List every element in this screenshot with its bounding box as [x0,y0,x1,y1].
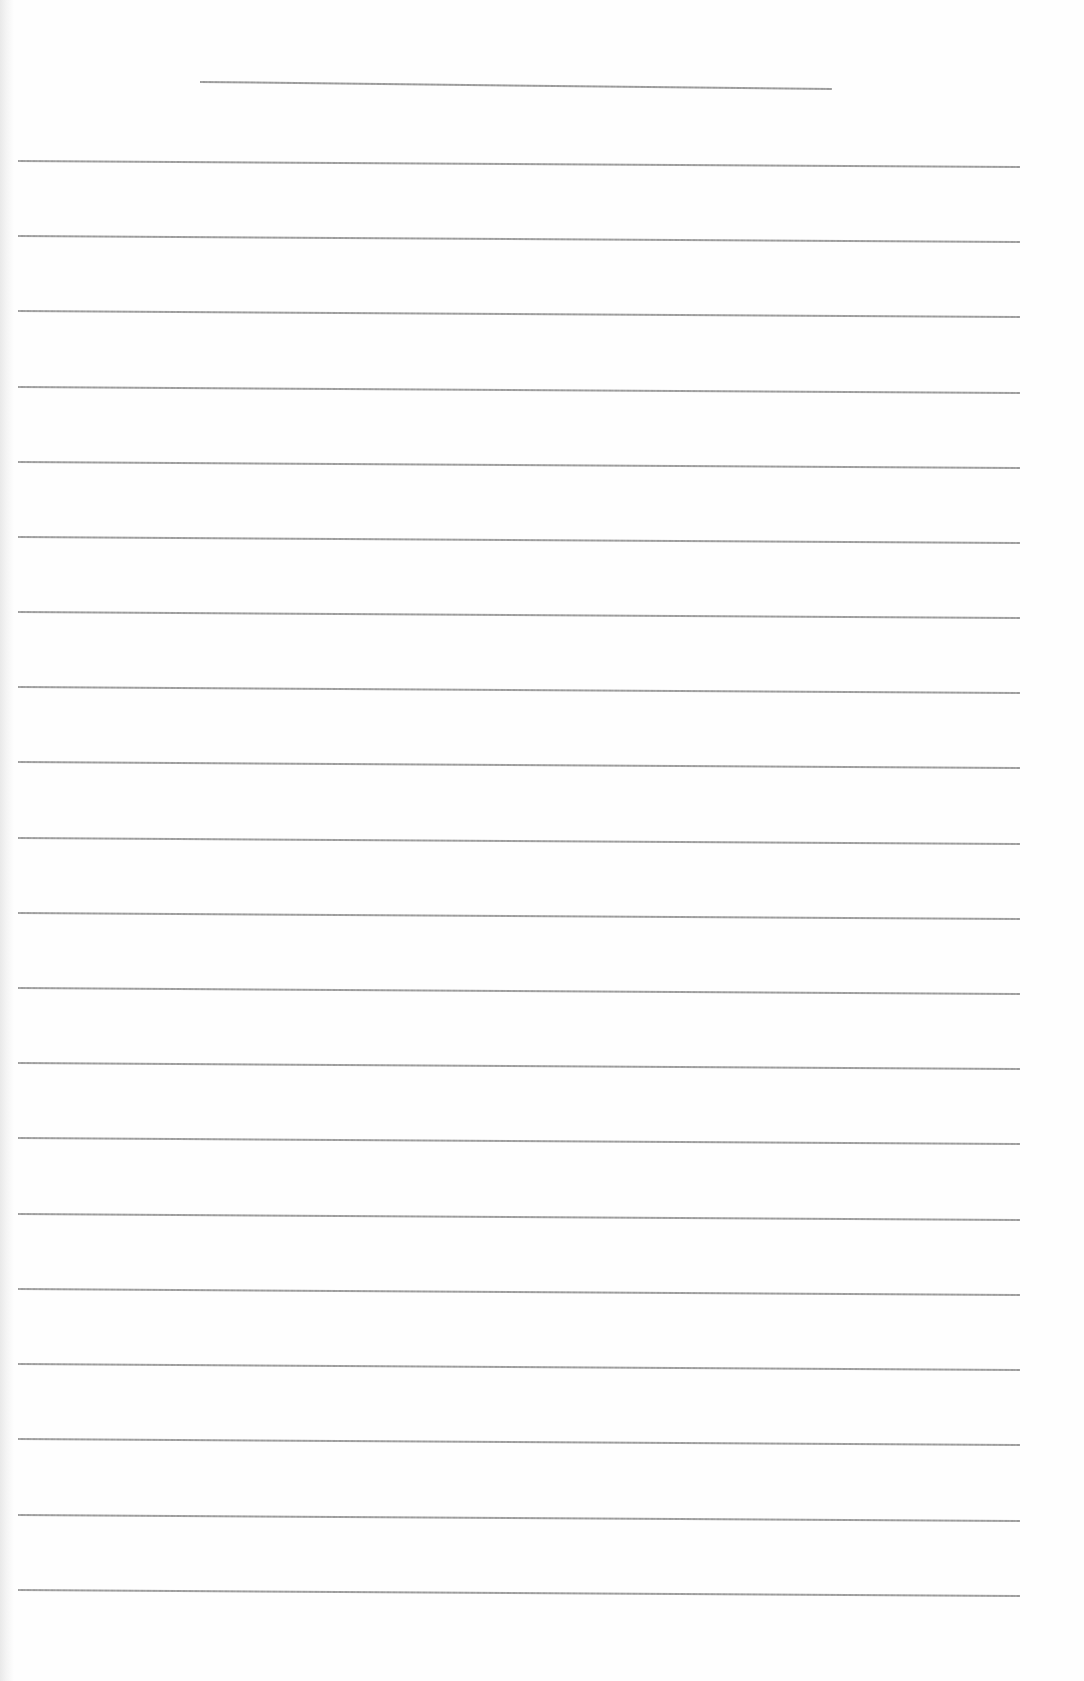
ruled-line [18,1438,1020,1446]
title-line [200,81,832,90]
ruled-line [18,536,1020,544]
ruled-line [18,761,1020,769]
ruled-line [18,160,1020,168]
ruled-line [18,1363,1020,1371]
ruled-line [18,310,1020,318]
ruled-line [18,611,1020,619]
ruled-line [18,837,1020,845]
scan-edge-shadow [0,0,14,1681]
ruled-line [18,987,1020,995]
ruled-line [18,1062,1020,1070]
ruled-paper-page [0,0,1084,1681]
ruled-line [18,386,1020,394]
ruled-line [18,1213,1020,1221]
ruled-line [18,235,1020,243]
ruled-line [18,912,1020,920]
ruled-line [18,1137,1020,1145]
ruled-line [18,461,1020,469]
ruled-line [18,1589,1020,1597]
ruled-line [18,686,1020,694]
ruled-line [18,1514,1020,1522]
ruled-line [18,1288,1020,1296]
